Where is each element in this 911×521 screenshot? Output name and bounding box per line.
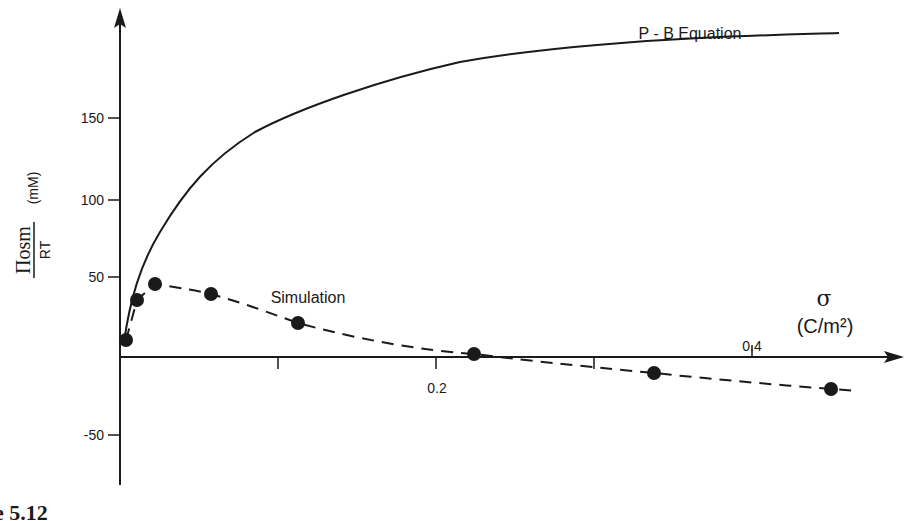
data-point — [148, 277, 162, 291]
data-point — [130, 293, 144, 307]
x-axis-label-symbol: σ — [816, 286, 831, 311]
simulation-label: Simulation — [271, 289, 346, 306]
data-point — [467, 347, 481, 361]
data-point — [291, 316, 305, 330]
figure-caption-fragment: e 5.12 — [0, 500, 48, 521]
data-point — [119, 333, 133, 347]
y-tick-label: 50 — [88, 269, 104, 285]
chart-canvas: 150 100 50 -50 0.2 0.4 σ (C/m²) Πosm RT … — [0, 0, 911, 521]
y-ticks — [108, 118, 120, 435]
y-axis-label: Πosm RT (mM) — [12, 172, 53, 278]
data-point — [824, 382, 838, 396]
x-tick-label: 0.4 — [742, 338, 762, 354]
simulation-markers — [119, 277, 838, 396]
data-point — [204, 287, 218, 301]
x-tick-label: 0.2 — [427, 380, 447, 396]
y-axis-label-numerator: Πosm — [12, 226, 34, 274]
x-axis-label-unit: (C/m²) — [797, 315, 854, 337]
y-axis-label-denominator: RT — [37, 240, 53, 259]
pb-equation-label: P - B Equation — [639, 25, 742, 42]
y-tick-label: 150 — [81, 110, 105, 126]
data-point — [647, 366, 661, 380]
y-tick-label: 100 — [81, 192, 105, 208]
y-axis-label-unit: (mM) — [25, 172, 41, 205]
pb-equation-curve — [124, 33, 839, 342]
y-tick-label: -50 — [84, 427, 104, 443]
